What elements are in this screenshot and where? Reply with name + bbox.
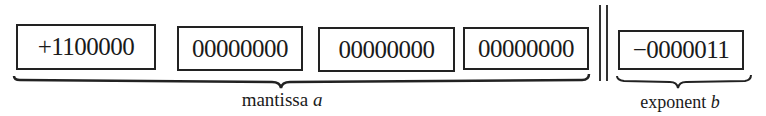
mantissa-label: mantissa a	[242, 89, 323, 111]
exponent-brace	[617, 75, 751, 88]
exponent-label: exponent b	[640, 92, 719, 113]
mantissa-brace	[14, 74, 589, 88]
exponent-variable: b	[711, 92, 720, 112]
mantissa-variable: a	[313, 89, 323, 110]
